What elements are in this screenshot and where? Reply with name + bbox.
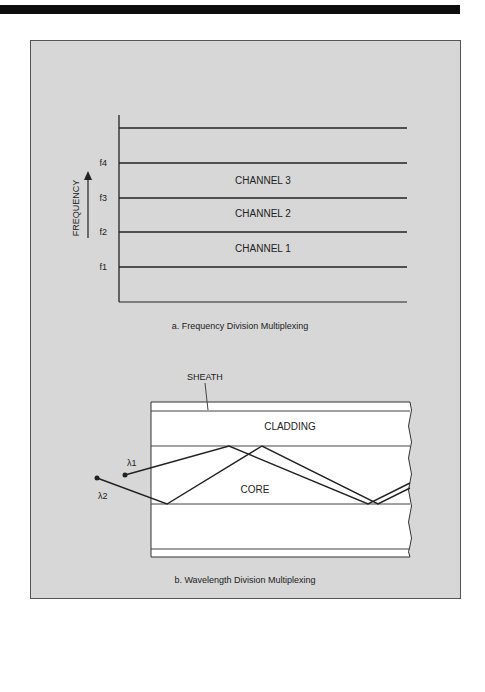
cladding-label: CLADDING bbox=[264, 421, 316, 432]
tick-f1: f1 bbox=[99, 262, 107, 272]
sheath-label: SHEATH bbox=[187, 372, 223, 382]
diagram-canvas: FREQUENCY f4 f3 f2 f1 CHANNEL 3 CHANNEL … bbox=[0, 0, 485, 692]
core-label: CORE bbox=[241, 484, 270, 495]
channel-3-label: CHANNEL 3 bbox=[235, 175, 291, 186]
channel-2-label: CHANNEL 2 bbox=[235, 208, 291, 219]
wdm-diagram bbox=[95, 383, 412, 557]
channel-1-label: CHANNEL 1 bbox=[235, 243, 291, 254]
tick-f4: f4 bbox=[99, 158, 107, 168]
caption-b: b. Wavelength Division Multiplexing bbox=[174, 575, 315, 585]
lambda2-source-dot bbox=[95, 476, 100, 481]
tick-f3: f3 bbox=[99, 193, 107, 203]
caption-a: a. Frequency Division Multiplexing bbox=[172, 321, 309, 331]
lambda2-label: λ2 bbox=[98, 491, 108, 501]
lambda1-label: λ1 bbox=[127, 458, 137, 468]
frequency-arrow-icon bbox=[84, 171, 92, 180]
tick-f2: f2 bbox=[99, 227, 107, 237]
lambda1-source-dot bbox=[123, 473, 128, 478]
frequency-axis-label: FREQUENCY bbox=[71, 180, 81, 237]
